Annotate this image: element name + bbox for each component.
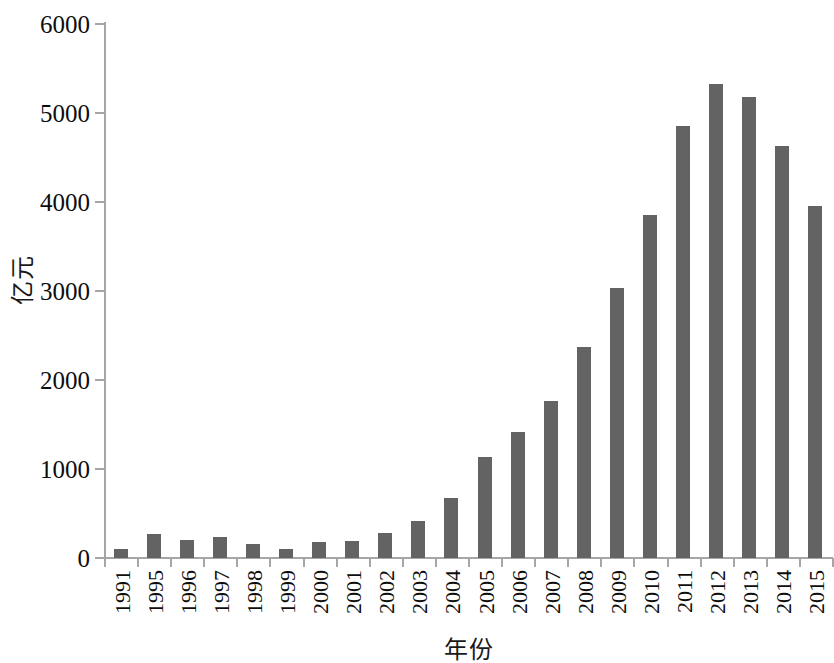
x-tick-label-text: 1995	[145, 570, 167, 614]
x-tick-mark	[700, 558, 702, 567]
x-tick-mark	[468, 558, 470, 567]
x-axis-title: 年份	[104, 630, 833, 663]
x-tick-mark	[534, 558, 536, 567]
y-tick-label: 3000	[40, 279, 90, 304]
bar	[411, 521, 425, 558]
bar	[312, 542, 326, 558]
x-tick-mark	[567, 558, 569, 567]
x-tick-mark	[766, 558, 768, 567]
x-tick-label-text: 1998	[244, 570, 266, 614]
bar	[345, 541, 359, 558]
bar	[511, 432, 525, 558]
x-tick-mark	[137, 558, 139, 567]
x-tick-label-text: 1991	[112, 570, 134, 614]
x-tick-label-text: 2013	[740, 570, 762, 614]
bar	[213, 537, 227, 558]
bar	[478, 457, 492, 558]
y-tick-label: 1000	[40, 457, 90, 482]
x-tick-label-text: 2012	[707, 570, 729, 614]
x-tick-label-text: 2010	[641, 570, 663, 614]
y-axis-title: 亿元	[0, 0, 40, 558]
x-tick-label-text: 2000	[310, 570, 332, 614]
x-tick-label-text: 2007	[542, 570, 564, 614]
y-axis-tick-labels: 0100020003000400050006000	[36, 0, 98, 570]
x-tick-mark	[733, 558, 735, 567]
y-tick-mark	[95, 379, 105, 381]
x-tick-label-text: 2008	[575, 570, 597, 614]
bar	[610, 288, 624, 558]
x-tick-label-text: 1999	[277, 570, 299, 614]
x-tick-label-text: 1996	[178, 570, 200, 614]
x-tick-label-text: 2003	[409, 570, 431, 614]
x-tick-mark	[269, 558, 271, 567]
x-tick-mark	[303, 558, 305, 567]
x-tick-label-text: 2009	[608, 570, 630, 614]
x-tick-label-text: 2004	[442, 570, 464, 614]
x-tick-mark	[104, 558, 106, 567]
x-tick-label-text: 2014	[773, 570, 795, 614]
x-tick-mark	[435, 558, 437, 567]
x-tick-mark	[501, 558, 503, 567]
y-tick-mark	[95, 290, 105, 292]
x-tick-mark	[600, 558, 602, 567]
x-tick-mark	[667, 558, 669, 567]
bar	[544, 401, 558, 558]
y-axis-title-label: 亿元	[3, 254, 38, 304]
y-tick-label: 0	[78, 546, 91, 571]
y-tick-label: 4000	[40, 190, 90, 215]
y-tick-label: 5000	[40, 101, 90, 126]
y-tick-mark	[95, 201, 105, 203]
bar	[180, 540, 194, 558]
bar	[643, 215, 657, 558]
x-tick-mark	[203, 558, 205, 567]
y-tick-label: 6000	[40, 12, 90, 37]
plot-area	[104, 24, 832, 558]
bar	[742, 97, 756, 558]
x-tick-mark	[369, 558, 371, 567]
x-tick-label-text: 2006	[509, 570, 531, 614]
x-tick-label-text: 2015	[806, 570, 828, 614]
y-tick-label: 2000	[40, 368, 90, 393]
x-tick-mark	[402, 558, 404, 567]
y-tick-mark	[95, 468, 105, 470]
x-tick-label-text: 2011	[674, 570, 696, 613]
bar	[378, 533, 392, 558]
x-tick-mark	[236, 558, 238, 567]
x-tick-mark	[170, 558, 172, 567]
bar	[114, 549, 128, 558]
bar-chart: 亿元 0100020003000400050006000 19911995199…	[0, 0, 834, 663]
bar	[709, 84, 723, 558]
y-tick-mark	[95, 23, 105, 25]
x-tick-mark	[633, 558, 635, 567]
x-tick-mark	[336, 558, 338, 567]
bar	[808, 206, 822, 558]
x-tick-label-text: 2005	[476, 570, 498, 614]
y-tick-mark	[95, 112, 105, 114]
x-tick-label-text: 1997	[211, 570, 233, 614]
bar	[147, 534, 161, 558]
bar	[775, 146, 789, 558]
bar	[676, 126, 690, 558]
x-tick-mark	[799, 558, 801, 567]
bar	[444, 498, 458, 558]
x-tick-label-text: 2002	[376, 570, 398, 614]
bar	[246, 544, 260, 558]
bar	[279, 549, 293, 558]
bar	[577, 347, 591, 558]
x-tick-label-text: 2001	[343, 570, 365, 614]
